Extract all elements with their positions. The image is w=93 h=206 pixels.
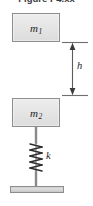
physics-figure: Figure P4.xx m1 m2 bbox=[0, 0, 93, 206]
spring-turn-3 bbox=[30, 156, 42, 159]
spring-coil bbox=[30, 144, 42, 171]
mass-subscript-m1: 1 bbox=[38, 26, 42, 35]
spring-turn-1 bbox=[30, 144, 42, 147]
dimension-label-h: h bbox=[77, 60, 82, 71]
spring-return-4 bbox=[30, 165, 42, 168]
arrowhead-down bbox=[70, 88, 76, 95]
spring-return-2 bbox=[30, 153, 42, 156]
spring-turn-2 bbox=[30, 150, 42, 153]
dimension-line-h bbox=[62, 43, 88, 96]
mass-symbol-m2: m bbox=[30, 106, 38, 118]
spring-return-3 bbox=[30, 159, 42, 162]
ground-support bbox=[10, 186, 64, 193]
figure-caption: Figure P4.xx bbox=[0, 0, 93, 5]
mass-symbol-m1: m bbox=[30, 21, 38, 33]
spring-turn-5 bbox=[30, 168, 42, 171]
mass-block-m1: m1 bbox=[12, 13, 60, 42]
mass-block-m2: m2 bbox=[12, 98, 60, 127]
arrowhead-up bbox=[70, 43, 76, 50]
spring-return-1 bbox=[30, 147, 42, 150]
spring-label-k: k bbox=[46, 150, 51, 161]
spring-turn-4 bbox=[30, 162, 42, 165]
mass-label-m1: m1 bbox=[13, 21, 59, 33]
mass-label-m2: m2 bbox=[13, 106, 59, 118]
mass-subscript-m2: 2 bbox=[38, 111, 42, 120]
